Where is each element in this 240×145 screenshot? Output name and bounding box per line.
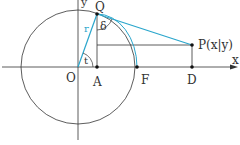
segment-QP: [97, 14, 192, 45]
diagram: y Q r δ t O A F D P(x|y) x: [0, 0, 240, 145]
label-F: F: [141, 74, 149, 86]
label-O: O: [66, 72, 76, 84]
diagram-canvas: [0, 0, 240, 145]
point-P: [190, 43, 194, 47]
point-A: [95, 65, 99, 69]
point-D: [190, 65, 194, 69]
label-delta: δ: [100, 21, 107, 32]
label-t: t: [84, 56, 88, 66]
point-F: [135, 65, 139, 69]
label-Q: Q: [95, 1, 105, 13]
label-x-axis: x: [232, 54, 239, 66]
label-A: A: [93, 76, 102, 88]
label-r: r: [84, 24, 89, 34]
label-y-axis: y: [81, 0, 87, 8]
label-D: D: [187, 74, 197, 86]
label-P: P(x|y): [198, 39, 233, 51]
